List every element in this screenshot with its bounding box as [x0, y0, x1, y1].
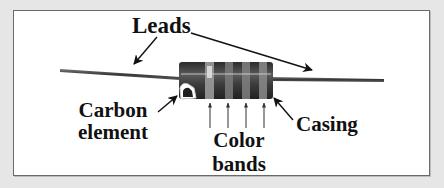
leads-arrow-left: [134, 37, 157, 64]
leads-label: Leads: [132, 14, 191, 37]
color-band-4: [259, 62, 267, 99]
carbon-element-label-line2: element: [78, 121, 148, 143]
left-lead: [60, 69, 180, 80]
color-bands-label-line1: Color: [204, 128, 274, 152]
color-bands-label: Color bands: [204, 128, 274, 176]
casing-arrow: [274, 98, 293, 120]
right-lead: [272, 77, 384, 82]
casing-label: Casing: [296, 114, 358, 135]
color-band-2: [225, 62, 233, 99]
carbon-element-label: Carbon element: [78, 99, 148, 143]
color-bands-label-line2: bands: [204, 152, 274, 176]
color-band-3: [242, 62, 250, 99]
resistor-body: [179, 62, 273, 99]
carbon-element-label-line1: Carbon: [78, 99, 148, 121]
carbon-element-arrow: [158, 96, 177, 112]
